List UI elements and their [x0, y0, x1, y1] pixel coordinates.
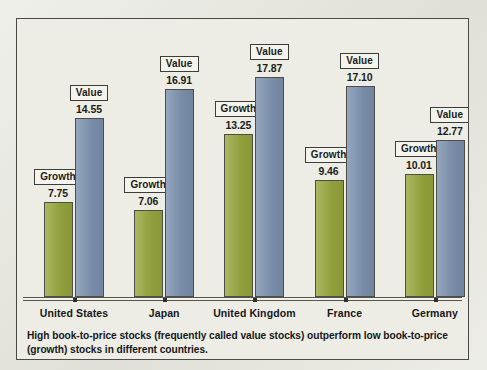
bar-value-value: 16.91: [148, 74, 210, 86]
bar-value-value: 17.87: [238, 62, 300, 74]
x-axis-tick: [434, 298, 438, 302]
bar-value-value: 17.10: [329, 71, 391, 83]
series-tag-value: Value: [340, 53, 379, 69]
x-axis-tick: [253, 298, 257, 302]
bar-group: Growth13.25Value17.87: [224, 19, 284, 301]
series-tag-value: Value: [430, 107, 469, 123]
series-tag-value: Value: [70, 85, 109, 101]
x-axis-tick: [73, 298, 77, 302]
chart-frame: Growth7.75Value14.55Growth7.06Value16.91…: [16, 18, 469, 360]
bar-value: [75, 118, 104, 297]
series-tag-value: Value: [160, 56, 199, 72]
x-axis-label: Germany: [380, 307, 469, 319]
bar-label-value: Value17.87: [238, 41, 300, 74]
bar-growth: [315, 180, 344, 297]
bar-value: [165, 89, 194, 297]
bar-value: [436, 140, 465, 297]
x-axis-tick: [344, 298, 348, 302]
bar-value: [346, 86, 375, 297]
bar-growth: [224, 134, 253, 297]
series-tag-value: Value: [250, 44, 289, 60]
bar-group: Growth9.46Value17.10: [315, 19, 375, 301]
plot-area: Growth7.75Value14.55Growth7.06Value16.91…: [17, 19, 468, 301]
bar-growth: [405, 174, 434, 297]
bar-label-value: Value14.55: [58, 82, 120, 115]
bar-growth: [134, 210, 163, 297]
bar-value: [255, 77, 284, 297]
bar-group: Growth7.06Value16.91: [134, 19, 194, 301]
bar-group: Growth7.75Value14.55: [44, 19, 104, 301]
bar-label-value: Value17.10: [329, 50, 391, 83]
bar-label-value: Value12.77: [419, 104, 469, 137]
bar-label-value: Value16.91: [148, 53, 210, 86]
x-axis-tick: [163, 298, 167, 302]
x-axis-labels: United StatesJapanUnited KingdomFranceGe…: [17, 307, 468, 327]
page-background: Growth7.75Value14.55Growth7.06Value16.91…: [0, 0, 487, 370]
chart-caption: High book-to-price stocks (frequently ca…: [27, 329, 461, 356]
bar-growth: [44, 202, 73, 297]
bar-value-value: 12.77: [419, 125, 469, 137]
bar-value-value: 14.55: [58, 103, 120, 115]
bar-group: Growth10.01Value12.77: [405, 19, 465, 301]
